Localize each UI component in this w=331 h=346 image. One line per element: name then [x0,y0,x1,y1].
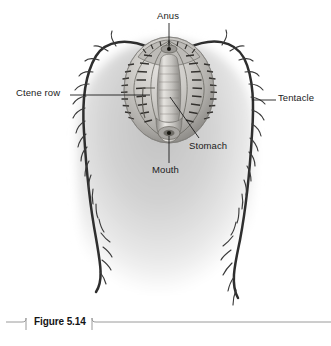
figure-caption-label: Figure 5.14 [34,316,86,327]
label-ctene-row: Ctene row [16,88,60,98]
label-anus: Anus [157,11,179,21]
label-tentacle: Tentacle [278,93,314,103]
label-stomach: Stomach [189,141,227,151]
mouth-opening [167,131,171,135]
label-mouth: Mouth [152,165,179,175]
figure-container: Anus Ctene row Tentacle Stomach Mouth Fi… [0,0,331,346]
